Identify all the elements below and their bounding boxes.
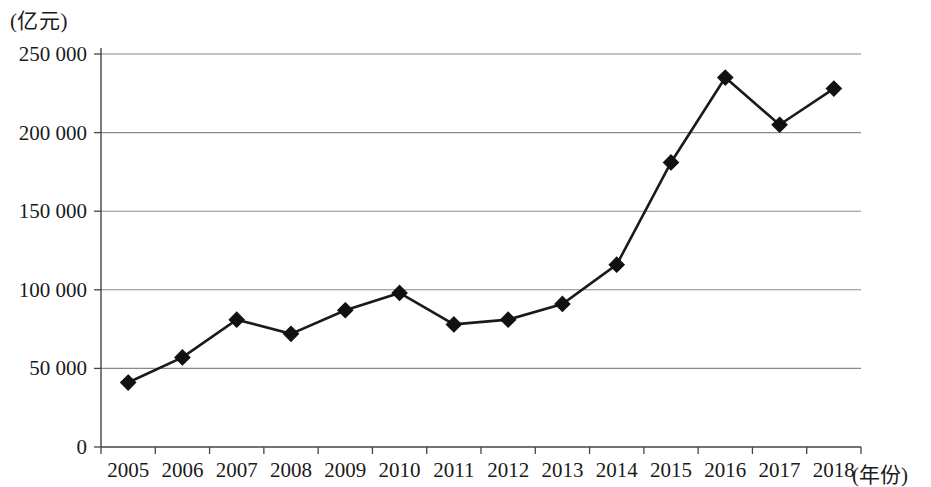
y-tick-label: 0 [77, 435, 88, 459]
x-axis-title: (年份) [852, 458, 908, 487]
data-point-marker [338, 303, 353, 318]
x-tick-label: 2006 [161, 458, 203, 482]
data-point-marker [664, 155, 679, 170]
y-tick-label: 200 000 [19, 121, 87, 145]
data-point-marker [175, 350, 190, 365]
x-tick-label: 2005 [107, 458, 149, 482]
data-series-markers [121, 70, 842, 390]
x-tick-label: 2007 [216, 458, 258, 482]
x-tick-labels-group: 2005200620072008200920102011201220132014… [107, 458, 855, 482]
data-point-marker [501, 312, 516, 327]
data-point-marker [392, 285, 407, 300]
x-tick-label: 2018 [813, 458, 855, 482]
x-tick-label: 2016 [704, 458, 746, 482]
x-tick-label: 2008 [270, 458, 312, 482]
data-series-line [128, 78, 834, 383]
data-point-marker [826, 81, 841, 96]
x-tick-label: 2015 [650, 458, 692, 482]
x-tick-label: 2009 [324, 458, 366, 482]
data-point-marker [284, 326, 299, 341]
x-tick-label: 2011 [433, 458, 474, 482]
data-point-marker [229, 312, 244, 327]
x-tick-label: 2017 [759, 458, 801, 482]
x-tick-marks-group [101, 447, 861, 454]
series-polyline [128, 78, 834, 383]
y-tick-label: 250 000 [19, 42, 87, 66]
x-tick-label: 2010 [379, 458, 421, 482]
chart-plot-area: 050 000100 000150 000200 000250 000 2005… [0, 0, 931, 487]
y-tick-label: 100 000 [19, 278, 87, 302]
data-point-marker [121, 375, 136, 390]
y-tick-labels-group: 050 000100 000150 000200 000250 000 [19, 42, 87, 459]
data-point-marker [446, 317, 461, 332]
axis-lines-group [101, 48, 861, 447]
y-tick-label: 50 000 [29, 356, 87, 380]
line-chart-figure: (亿元) 050 000100 000150 000200 000250 000… [0, 0, 931, 487]
x-tick-label: 2012 [487, 458, 529, 482]
x-tick-label: 2014 [596, 458, 639, 482]
y-tick-label: 150 000 [19, 199, 87, 223]
x-tick-label: 2013 [541, 458, 583, 482]
y-tick-marks-group [94, 54, 101, 447]
